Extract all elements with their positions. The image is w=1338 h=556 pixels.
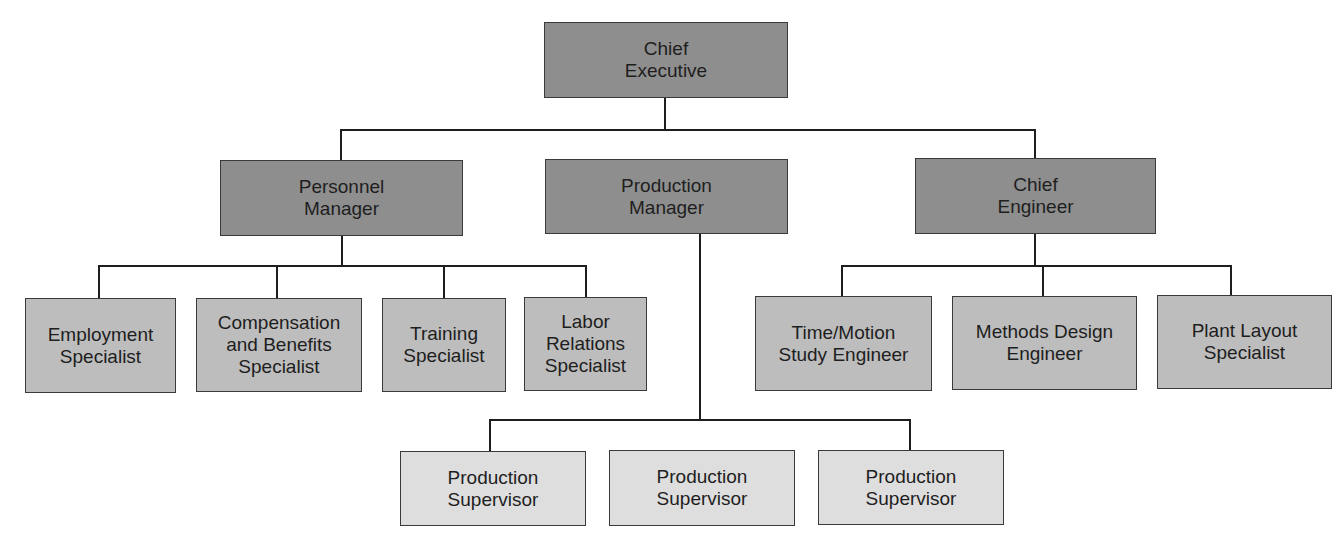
connector-line: [98, 265, 587, 267]
node-employment-specialist: Employment Specialist: [25, 298, 176, 393]
connector-line: [1034, 233, 1036, 266]
connector-line: [841, 265, 843, 296]
node-methods-design-engineer: Methods Design Engineer: [952, 296, 1137, 390]
node-production-supervisor-3: Production Supervisor: [818, 450, 1004, 525]
connector-line: [340, 129, 342, 160]
connector-line: [1034, 129, 1036, 159]
connector-line: [1230, 265, 1232, 295]
node-training-specialist: Training Specialist: [382, 298, 506, 392]
node-production-manager: Production Manager: [545, 159, 788, 234]
connector-line: [841, 265, 1232, 267]
node-production-supervisor-1: Production Supervisor: [400, 451, 586, 526]
connector-line: [341, 235, 343, 267]
connector-line: [909, 419, 911, 450]
connector-line: [489, 419, 911, 421]
node-compensation-benefits-specialist: Compensation and Benefits Specialist: [196, 298, 362, 392]
node-time-motion-study-engineer: Time/Motion Study Engineer: [755, 296, 932, 391]
connector-line: [443, 265, 445, 298]
node-personnel-manager: Personnel Manager: [220, 160, 463, 236]
connector-line: [585, 265, 587, 297]
node-chief-executive: Chief Executive: [544, 22, 788, 98]
connector-line: [340, 129, 1036, 131]
connector-line: [98, 265, 100, 298]
connector-line: [276, 265, 278, 298]
node-chief-engineer: Chief Engineer: [915, 158, 1156, 234]
connector-line: [1042, 265, 1044, 296]
node-labor-relations-specialist: Labor Relations Specialist: [524, 297, 647, 391]
node-plant-layout-specialist: Plant Layout Specialist: [1157, 295, 1332, 389]
connector-line: [664, 97, 666, 131]
node-production-supervisor-2: Production Supervisor: [609, 450, 795, 526]
connector-line: [699, 233, 701, 421]
org-chart: Chief Executive Personnel Manager Produc…: [0, 0, 1338, 556]
connector-line: [489, 419, 491, 451]
